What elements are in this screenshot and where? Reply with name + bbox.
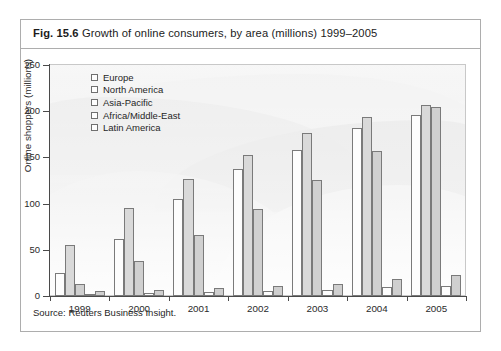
x-axis-tick: [169, 296, 170, 301]
bar: [431, 107, 441, 296]
bar: [65, 245, 75, 296]
chart-body: 050100150200250 199920002001200220032004…: [21, 50, 480, 332]
legend-swatch-icon: [91, 86, 98, 93]
legend-item-label: Europe: [103, 72, 134, 83]
x-axis-label: 2005: [425, 303, 447, 314]
figure-frame: Fig. 15.6 Growth of online consumers, by…: [20, 19, 481, 332]
bar: [352, 128, 362, 296]
figure-number: Fig. 15.6: [33, 27, 79, 39]
bar: [322, 290, 332, 296]
bar: [372, 151, 382, 296]
legend-swatch-icon: [91, 99, 98, 106]
bar: [292, 150, 302, 296]
x-axis-tick: [228, 296, 229, 301]
bar: [441, 286, 451, 296]
y-axis-tick-label: 50: [29, 244, 40, 255]
bar: [173, 199, 183, 296]
y-axis-tick: 100: [43, 204, 49, 205]
legend-swatch-icon: [91, 112, 98, 119]
bar: [134, 261, 144, 296]
bar: [55, 273, 65, 296]
y-axis-tick: 0: [43, 296, 49, 297]
bar: [243, 155, 253, 296]
bar: [233, 169, 243, 297]
y-axis-tick: 200: [43, 111, 49, 112]
bar: [75, 284, 85, 296]
bar: [362, 117, 372, 296]
y-axis-tick: 150: [43, 157, 49, 158]
x-axis-tick: [466, 296, 467, 301]
bar: [273, 286, 283, 296]
x-axis-label: 2003: [307, 303, 329, 314]
legend-item: North America: [91, 84, 180, 97]
x-axis-tick: [50, 296, 51, 301]
bar: [421, 105, 431, 296]
bar: [154, 290, 164, 296]
bar: [333, 284, 343, 296]
x-axis-tick: [288, 296, 289, 301]
x-axis-label: 2001: [188, 303, 210, 314]
bar: [204, 292, 214, 296]
y-axis-tick-label: 0: [35, 290, 40, 301]
legend-item: Africa/Middle-East: [91, 109, 180, 122]
bar: [392, 279, 402, 296]
bar: [183, 179, 193, 296]
bar: [124, 208, 134, 296]
x-axis-tick: [109, 296, 110, 301]
bar: [253, 209, 263, 296]
bar: [312, 180, 322, 296]
bar: [194, 235, 204, 296]
bar: [95, 291, 105, 296]
bar: [451, 275, 461, 296]
source-note: Source: Reuters Business Insight.: [33, 307, 176, 318]
x-axis-label: 2002: [247, 303, 269, 314]
y-axis-tick: 50: [43, 250, 49, 251]
x-axis-tick: [407, 296, 408, 301]
legend-item: Asia-Pacific: [91, 96, 180, 109]
legend-item-label: Latin America: [103, 122, 161, 133]
legend-item-label: North America: [103, 84, 163, 95]
legend-item-label: Africa/Middle-East: [103, 110, 180, 121]
bar: [411, 115, 421, 296]
y-axis-tick: 250: [43, 65, 49, 66]
figure-header: Fig. 15.6 Growth of online consumers, by…: [21, 20, 480, 49]
bar: [85, 294, 95, 296]
bar: [214, 288, 224, 296]
bar: [144, 293, 154, 296]
legend-item-label: Asia-Pacific: [103, 97, 153, 108]
legend-swatch-icon: [91, 124, 98, 131]
bar: [263, 291, 273, 296]
bar: [382, 287, 392, 296]
page-title: Fig. 15.6 Growth of online consumers, by…: [33, 27, 377, 39]
chart-legend: EuropeNorth AmericaAsia-PacificAfrica/Mi…: [91, 71, 180, 134]
y-axis-tick-label: 100: [24, 198, 40, 209]
legend-swatch-icon: [91, 74, 98, 81]
bar: [302, 133, 312, 296]
x-axis-tick: [347, 296, 348, 301]
figure-title-text: Growth of online consumers, by area (mil…: [82, 27, 377, 39]
bar: [114, 239, 124, 296]
legend-item: Latin America: [91, 121, 180, 134]
y-axis-title: Online shoppers (millions): [22, 36, 33, 196]
x-axis-line: [49, 296, 467, 297]
legend-item: Europe: [91, 71, 180, 84]
x-axis-label: 2004: [366, 303, 388, 314]
